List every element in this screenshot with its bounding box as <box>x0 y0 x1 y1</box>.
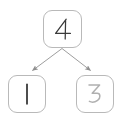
edge-root-to-left <box>33 49 63 71</box>
tree-node-root[interactable]: 4 <box>43 10 82 48</box>
tree-node-left-child[interactable]: 1 <box>8 75 46 113</box>
digit-3-glyph <box>85 82 105 106</box>
edge-root-to-right <box>62 49 91 71</box>
tree-diagram: 4 1 3 <box>0 0 122 122</box>
digit-4-glyph <box>53 17 73 41</box>
tree-node-right-child[interactable]: 3 <box>76 75 114 113</box>
digit-1-glyph <box>18 82 36 106</box>
